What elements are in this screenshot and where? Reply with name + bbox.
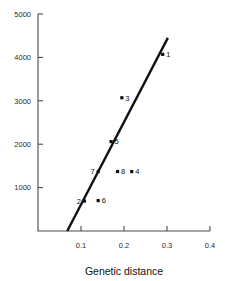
point-label: 3 <box>125 94 129 103</box>
y-tick-label: 1000 <box>14 183 31 192</box>
point-label: 7 <box>91 167 95 176</box>
point-label: 2 <box>77 197 81 206</box>
x-axis-title: Genetic distance <box>85 265 163 277</box>
point-marker <box>110 140 113 143</box>
point-marker <box>161 53 164 56</box>
point-marker <box>120 96 123 99</box>
point-label: 8 <box>121 167 125 176</box>
point-marker <box>83 199 86 202</box>
point-marker <box>97 170 100 173</box>
y-tick-label: 4000 <box>14 53 31 62</box>
x-tick-label: 0.4 <box>205 241 215 250</box>
point-marker <box>130 170 133 173</box>
point-label: 6 <box>102 196 106 205</box>
y-tick-label: 2000 <box>14 140 31 149</box>
y-tick-label: 5000 <box>14 10 31 19</box>
point-label: 1 <box>166 50 170 59</box>
point-label: 4 <box>135 167 139 176</box>
x-tick-label: 0.3 <box>162 241 172 250</box>
chart-canvas: 10002000300040005000 0.10.20.30.4 123456… <box>0 0 225 281</box>
x-tick-label: 0.2 <box>119 241 129 250</box>
point-marker <box>116 170 119 173</box>
y-tick-label: 3000 <box>14 97 31 106</box>
scatter-chart-figure: 10002000300040005000 0.10.20.30.4 123456… <box>0 0 225 281</box>
x-tick-label: 0.1 <box>76 241 86 250</box>
point-label: 5 <box>115 137 119 146</box>
point-marker <box>97 199 100 202</box>
